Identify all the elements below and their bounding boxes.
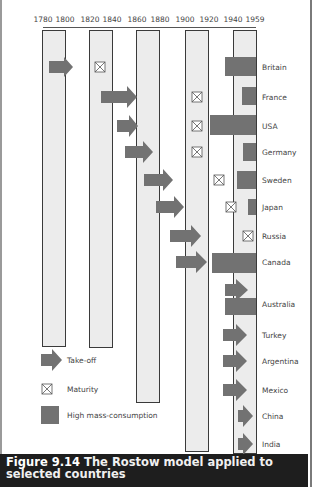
germany-takeoff-arrow-icon (125, 141, 153, 163)
usa-takeoff-arrow-icon (117, 115, 138, 137)
country-label-russia: Russia (262, 232, 286, 241)
country-label-india: India (262, 440, 280, 449)
country-label-turkey: Turkey (262, 331, 286, 340)
germany-maturity-icon (192, 147, 202, 157)
canada-takeoff-arrow-icon (176, 251, 207, 273)
country-label-france: France (262, 93, 287, 102)
russia-maturity-icon (243, 231, 253, 241)
japan-hmc-block (248, 199, 256, 215)
legend-maturity-label: Maturity (67, 385, 98, 394)
australia-takeoff-arrow-icon (225, 279, 248, 301)
sweden-maturity-icon (214, 175, 224, 185)
mexico-takeoff-arrow-icon (223, 379, 247, 401)
legend-takeoff-arrow-icon (41, 349, 62, 371)
germany-hmc-block (243, 143, 256, 161)
india-takeoff-arrow-icon (238, 433, 253, 455)
russia-takeoff-arrow-icon (170, 225, 201, 247)
usa-hmc-block (210, 115, 256, 135)
country-label-britain: Britain (262, 63, 287, 72)
usa-maturity-icon (192, 121, 202, 131)
britain-maturity-icon (95, 62, 105, 72)
legend-hmc-swatch-icon (41, 406, 59, 424)
country-label-japan: Japan (262, 203, 283, 212)
country-label-australia: Australia (262, 300, 295, 309)
sweden-takeoff-arrow-icon (144, 169, 173, 191)
country-label-germany: Germany (262, 148, 296, 157)
china-takeoff-arrow-icon (238, 405, 253, 427)
france-maturity-icon (192, 92, 202, 102)
france-takeoff-arrow-icon (101, 86, 137, 108)
france-hmc-block (242, 87, 256, 105)
country-label-argentina: Argentina (262, 357, 299, 366)
country-label-sweden: Sweden (262, 176, 292, 185)
turkey-takeoff-arrow-icon (223, 324, 247, 346)
legend-maturity-icon (42, 384, 52, 394)
britain-hmc-block (225, 57, 256, 76)
country-label-usa: USA (262, 122, 278, 131)
sweden-hmc-block (237, 171, 256, 189)
canada-hmc-block (212, 253, 256, 273)
country-label-mexico: Mexico (262, 386, 288, 395)
japan-takeoff-arrow-icon (156, 196, 184, 218)
japan-maturity-icon (226, 202, 236, 212)
australia-hmc-block (225, 298, 256, 315)
argentina-takeoff-arrow-icon (223, 350, 247, 372)
legend-takeoff-label: Take-off (67, 356, 96, 365)
britain-takeoff-arrow-icon (49, 57, 73, 77)
legend-hmc-label: High mass-consumption (67, 411, 158, 420)
country-label-canada: Canada (262, 258, 291, 267)
country-label-china: China (262, 412, 283, 421)
figure-caption: Figure 9.14The Rostow model applied to s… (0, 454, 308, 487)
